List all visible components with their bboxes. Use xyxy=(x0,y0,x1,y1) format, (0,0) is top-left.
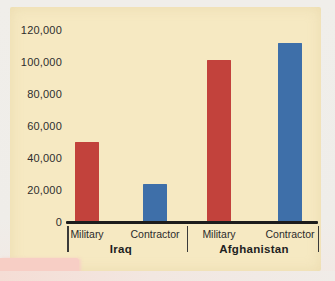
bar-iraq-military xyxy=(75,142,99,222)
category-label: Military xyxy=(183,228,255,240)
bottom-page-margin xyxy=(0,271,335,281)
category-label: Military xyxy=(51,228,123,240)
axis-separator-tick xyxy=(187,226,189,252)
y-axis-tick-label: 40,000 xyxy=(10,152,62,164)
group-label-afghanistan: Afghanistan xyxy=(189,243,319,256)
screenshot-root: 120,000100,00080,00060,00040,00020,0000M… xyxy=(0,0,335,281)
y-axis-tick-label: 120,000 xyxy=(10,24,62,36)
category-label: Contractor xyxy=(254,228,326,240)
y-axis-tick-label: 0 xyxy=(10,216,62,228)
axis-separator-tick xyxy=(318,226,320,252)
y-axis-tick-label: 80,000 xyxy=(10,88,62,100)
axis-separator-tick xyxy=(67,226,69,252)
y-axis-tick-label: 20,000 xyxy=(10,184,62,196)
y-axis-tick-label: 100,000 xyxy=(10,56,62,68)
group-label-iraq: Iraq xyxy=(56,243,186,256)
category-label: Contractor xyxy=(119,228,191,240)
x-axis-line xyxy=(66,221,318,224)
y-axis-tick-label: 60,000 xyxy=(10,120,62,132)
bar-iraq-contractor xyxy=(143,184,167,222)
bar-afghanistan-contractor xyxy=(278,43,302,222)
bar-afghanistan-military xyxy=(207,60,231,222)
